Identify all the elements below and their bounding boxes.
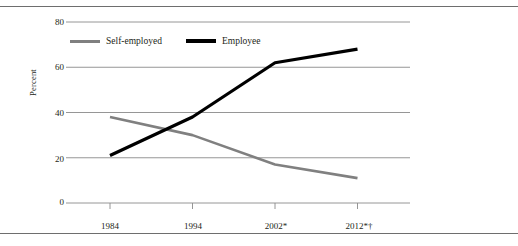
chart-canvas	[0, 0, 518, 246]
figure: Percent 80 60 40 20 0 1984 1994 2002* 20…	[0, 0, 518, 246]
gridlines	[66, 22, 410, 203]
series-line-self-employed	[110, 117, 358, 178]
x-axis	[110, 203, 358, 209]
series-line-employee	[110, 49, 358, 155]
series-lines	[110, 49, 358, 178]
